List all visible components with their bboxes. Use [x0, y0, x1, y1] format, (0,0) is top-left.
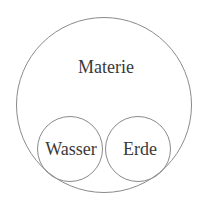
- materie-label: Materie: [78, 58, 134, 76]
- venn-diagram: Materie Wasser Erde: [0, 0, 205, 210]
- wasser-label: Wasser: [45, 140, 97, 158]
- erde-label: Erde: [123, 140, 157, 158]
